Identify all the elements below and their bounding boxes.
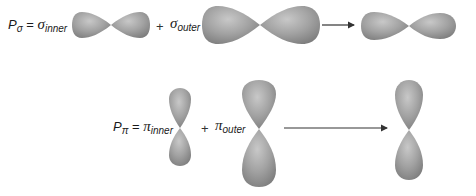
sigma-result-left-lobe xyxy=(361,12,409,40)
sigma-plus-sign: + xyxy=(156,20,164,33)
sigma-equals-sign: = xyxy=(26,17,34,32)
sigma-inner-subscript: inner xyxy=(45,23,67,34)
sigma-lhs-symbol: P xyxy=(8,17,17,32)
sigma-result-right-lobe xyxy=(409,13,456,39)
sigma-inner-orbital xyxy=(72,12,150,38)
pi-result-top-lobe xyxy=(395,80,423,130)
pi-outer-subscript: outer xyxy=(223,124,246,135)
pi-lhs-symbol: P xyxy=(113,119,122,134)
pi-outer-symbol: π xyxy=(215,117,223,133)
pi-lhs-label: Pπ = πinner xyxy=(113,119,173,136)
pi-inner-symbol: π xyxy=(143,118,151,134)
sigma-outer-label: σouter xyxy=(170,16,200,33)
pi-inner-subscript: inner xyxy=(151,125,173,136)
sigma-outer-subscript: outer xyxy=(177,22,200,33)
sigma-result-orbital xyxy=(361,12,456,40)
sigma-outer-right-lobe xyxy=(260,6,320,44)
sigma-inner-left-lobe xyxy=(72,12,111,38)
pi-result-bottom-lobe xyxy=(395,130,423,180)
pi-lhs-subscript: π xyxy=(122,125,129,136)
pi-result-orbital xyxy=(395,80,423,180)
pi-outer-orbital xyxy=(242,80,276,187)
pi-equals-sign: = xyxy=(132,119,140,134)
pi-outer-top-lobe xyxy=(242,80,276,129)
sigma-lhs-subscript: σ xyxy=(17,23,23,34)
pi-outer-bottom-lobe xyxy=(242,129,276,187)
sigma-outer-left-lobe xyxy=(202,6,260,44)
pi-outer-label: πouter xyxy=(215,118,245,135)
pi-plus-sign: + xyxy=(201,122,209,135)
sigma-outer-orbital xyxy=(202,6,320,44)
sigma-inner-right-lobe xyxy=(111,12,150,38)
sigma-inner-symbol: σ xyxy=(38,16,45,32)
sigma-lhs-label: Pσ = σinner xyxy=(8,17,67,34)
orbital-diagram xyxy=(0,0,476,196)
